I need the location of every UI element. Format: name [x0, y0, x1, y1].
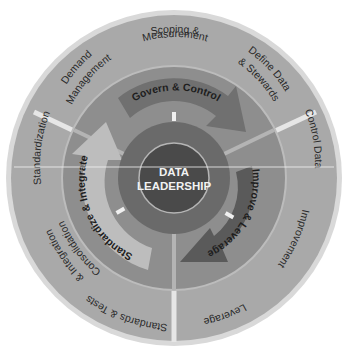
center-label-line1: DATA: [159, 166, 189, 178]
center-circle: [139, 143, 209, 213]
data-leadership-diagram: DATA LEADERSHIP Govern & Control Improve…: [0, 0, 347, 354]
center-label-line2: LEADERSHIP: [137, 180, 211, 192]
